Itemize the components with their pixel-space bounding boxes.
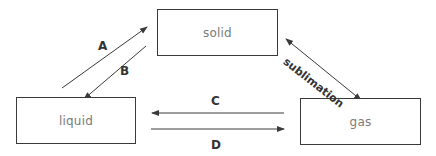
- state-label-solid: solid: [203, 26, 232, 40]
- arrow-a-liquid-to-solid: [62, 27, 147, 88]
- transition-label-d: D: [211, 139, 221, 151]
- state-label-liquid: liquid: [59, 114, 93, 128]
- state-label-gas: gas: [350, 115, 372, 129]
- phase-change-diagram: solid liquid gas A B C D sublimation: [0, 0, 436, 156]
- transition-label-b: B: [120, 65, 129, 77]
- state-box-solid: solid: [157, 9, 278, 56]
- transition-label-a: A: [98, 40, 107, 52]
- state-box-liquid: liquid: [16, 97, 136, 144]
- arrow-b-solid-to-liquid: [84, 46, 146, 99]
- state-box-gas: gas: [300, 98, 421, 145]
- transition-label-c: C: [211, 95, 220, 107]
